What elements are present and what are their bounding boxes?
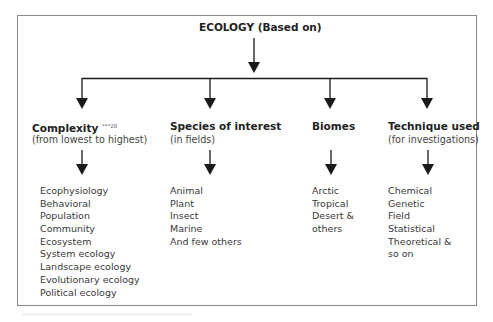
item-list-complexity: Ecophysiology Behavioral Population Comm… [40,185,140,299]
branch-title-text: Complexity [32,122,98,134]
branch-subtitle-technique: (for investigations) [388,134,479,147]
list-item: others [312,223,354,236]
list-item: Ecophysiology [40,185,140,198]
root-suffix: (Based on) [258,21,322,33]
branch-arrow-complexity [76,98,88,109]
list-item: so on [388,248,452,261]
list-item: Desert & [312,210,354,223]
list-item: Ecosystem [40,236,140,249]
root-label: ECOLOGY [199,21,254,33]
list-item: Theoretical & [388,236,452,249]
branch-arrow-technique [421,98,433,109]
list-item: Political ecology [40,287,140,300]
list-item: Community [40,223,140,236]
branch-title-biomes: Biomes [312,120,355,133]
branch-title-complexity: Complexity ***28 [32,120,117,135]
list-item: Plant [170,198,242,211]
list-item: Population [40,210,140,223]
branch-arrow-species [204,98,216,109]
list-arrow-biomes [325,164,337,175]
item-list-technique: Chemical Genetic Field Statistical Theor… [388,185,452,261]
list-item: Animal [170,185,242,198]
branch-subtitle-species: (in fields) [170,134,215,147]
list-item: Behavioral [40,198,140,211]
list-item: Arctic [312,185,354,198]
figure-caption-illegible [22,313,192,316]
list-item: Genetic [388,198,452,211]
list-arrow-technique [422,164,434,175]
list-item: And few others [170,236,242,249]
list-item: System ecology [40,248,140,261]
branch-title-species: Species of interest [170,120,281,133]
root-node: ECOLOGY (Based on) [199,21,322,34]
list-item: Evolutionary ecology [40,274,140,287]
item-list-species: Animal Plant Insect Marine And few other… [170,185,242,248]
item-list-biomes: Arctic Tropical Desert & others [312,185,354,236]
branch-title-technique: Technique used [388,120,480,133]
list-item: Landscape ecology [40,261,140,274]
list-arrow-species [204,164,216,175]
list-item: Insect [170,210,242,223]
list-item: Marine [170,223,242,236]
footnote-marker: ***28 [102,123,117,129]
root-arrow-head [248,62,260,73]
list-arrow-complexity [76,164,88,175]
branch-arrow-biomes [324,98,336,109]
branch-subtitle-complexity: (from lowest to highest) [32,134,147,147]
list-item: Tropical [312,198,354,211]
list-item: Field [388,210,452,223]
list-item: Statistical [388,223,452,236]
list-item: Chemical [388,185,452,198]
